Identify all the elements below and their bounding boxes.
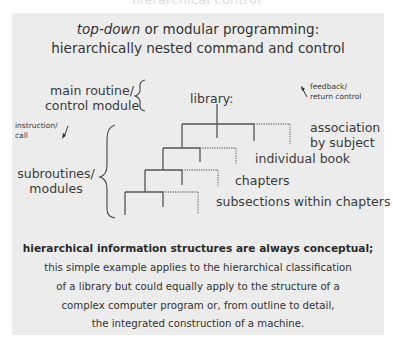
footer-line-4: the integrated construction of a machine… — [12, 318, 384, 329]
main-routine-brace — [135, 80, 145, 111]
subroutines-brace — [100, 125, 115, 218]
diagram-panel: top-down or modular programming: hierarc… — [12, 13, 384, 335]
footer-line-1: this simple example applies to the hiera… — [12, 262, 384, 273]
footer-bold-line: hierarchical information structures are … — [12, 242, 384, 254]
footer-line-3: complex computer program or, from outlin… — [12, 300, 384, 311]
diagram-title: hierarchical control — [0, 0, 393, 7]
footer-line-2: of a library but could equally apply to … — [12, 281, 384, 292]
